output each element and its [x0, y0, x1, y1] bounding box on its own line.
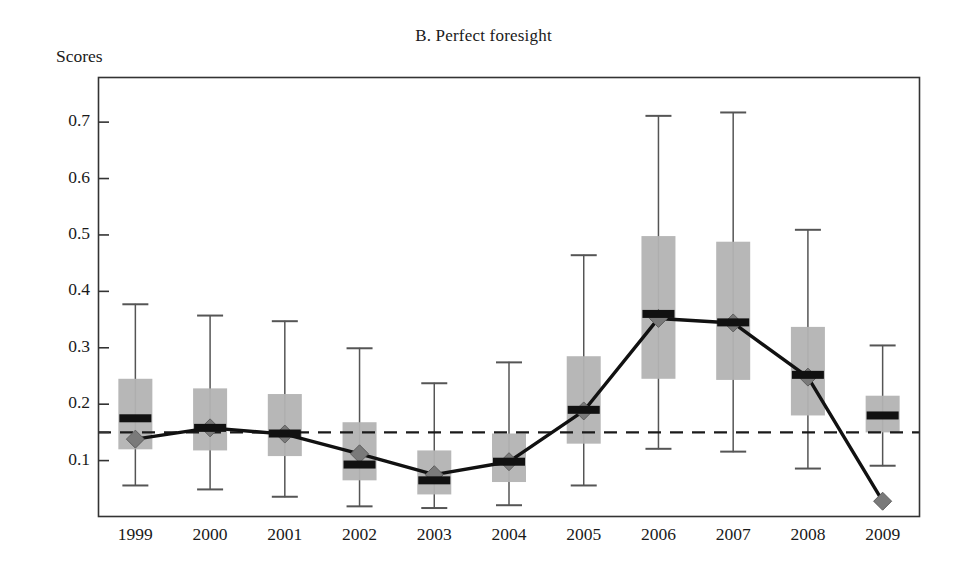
y-axis-title: Scores [56, 46, 103, 67]
median-bar-2001 [269, 430, 301, 438]
boxplot-2009 [866, 345, 900, 466]
boxplot-1999 [118, 304, 152, 486]
y-tick-label-0.3: 0.3 [38, 336, 90, 357]
boxplot-2001 [268, 321, 302, 498]
median-bar-2004 [493, 458, 525, 466]
x-tick-label-2008: 2008 [772, 524, 844, 545]
y-tick-label-0.1: 0.1 [38, 449, 90, 470]
median-bar-2009 [867, 411, 899, 419]
median-bar-2008 [792, 371, 824, 379]
y-tick-label-0.4: 0.4 [38, 279, 90, 300]
boxplot-2003 [417, 383, 451, 509]
boxplot-2005 [567, 255, 601, 486]
x-tick-label-2000: 2000 [174, 524, 246, 545]
y-tick-label-0.5: 0.5 [38, 223, 90, 244]
x-tick-label-2007: 2007 [697, 524, 769, 545]
boxplot-2006 [641, 115, 675, 449]
x-tick-label-2001: 2001 [249, 524, 321, 545]
x-tick-label-2003: 2003 [398, 524, 470, 545]
plot-svg [98, 77, 920, 517]
boxplot-layer [118, 112, 899, 509]
boxplot-2000 [193, 315, 227, 490]
median-bar-2003 [418, 476, 450, 484]
y-tick-marks [98, 122, 109, 460]
box-rect [716, 242, 750, 380]
x-tick-label-2004: 2004 [473, 524, 545, 545]
x-tick-label-2002: 2002 [324, 524, 396, 545]
y-tick-label-0.6: 0.6 [38, 167, 90, 188]
median-bar-2000 [194, 424, 226, 432]
box-rect [567, 356, 601, 443]
y-tick-label-0.7: 0.7 [38, 110, 90, 131]
x-tick-label-1999: 1999 [99, 524, 171, 545]
y-tick-label-0.2: 0.2 [38, 392, 90, 413]
boxplot-2002 [343, 348, 377, 507]
x-tick-label-2006: 2006 [622, 524, 694, 545]
x-tick-label-2005: 2005 [548, 524, 620, 545]
chart-figure: B. Perfect foresight Scores 0.10.20.30.4… [0, 0, 967, 580]
boxplot-2007 [716, 112, 750, 452]
box-rect [641, 236, 675, 379]
median-bar-1999 [119, 414, 151, 422]
x-tick-label-2009: 2009 [847, 524, 919, 545]
marker-diamond-2009 [874, 492, 892, 510]
median-bar-2002 [344, 461, 376, 469]
median-bar-2007 [717, 318, 749, 326]
plot-area [98, 77, 920, 517]
median-bar-2005 [568, 406, 600, 414]
boxplot-2004 [492, 362, 526, 506]
page-title: B. Perfect foresight [0, 26, 967, 46]
median-bar-2006 [642, 310, 674, 318]
